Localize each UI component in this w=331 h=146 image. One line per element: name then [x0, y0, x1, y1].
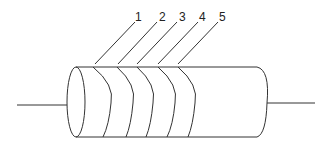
band-label-5: 5: [219, 10, 226, 24]
color-band-2: [117, 67, 134, 137]
leader-line-1: [95, 22, 135, 64]
band-label-1: 1: [135, 10, 142, 24]
band-label-4: 4: [199, 10, 206, 24]
leader-line-2: [118, 22, 157, 64]
leader-line-3: [137, 22, 177, 64]
color-band-5: [178, 67, 196, 137]
color-band-4: [158, 67, 176, 137]
resistor-left-end: [67, 67, 85, 137]
leader-line-4: [158, 22, 198, 64]
resistor-right-end: [257, 67, 268, 137]
color-band-1: [93, 67, 112, 137]
resistor-diagram: 1 2 3 4 5: [0, 0, 331, 146]
band-label-2: 2: [159, 10, 166, 24]
color-band-3: [137, 67, 154, 137]
leader-line-5: [178, 22, 218, 64]
band-label-3: 3: [179, 10, 186, 24]
